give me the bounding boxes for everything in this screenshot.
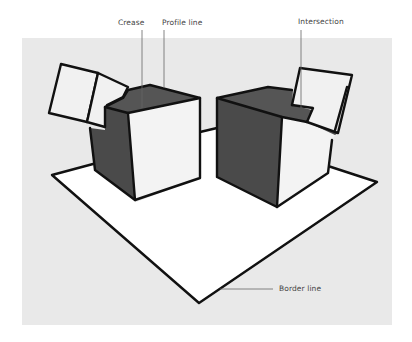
diagram-svg: [0, 0, 412, 342]
intersection-label: Intersection: [298, 17, 344, 26]
crease-label: Crease: [118, 18, 145, 27]
diagram-canvas: Crease Profile line Intersection Border …: [0, 0, 412, 342]
border-line-label: Border line: [279, 284, 321, 293]
profile-line-label: Profile line: [162, 18, 202, 27]
